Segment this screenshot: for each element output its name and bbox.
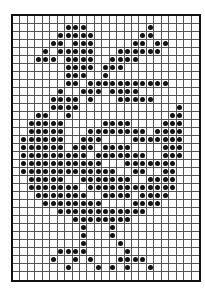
empty-stitch-cell xyxy=(147,128,154,136)
filled-stitch-cell xyxy=(80,32,87,40)
empty-stitch-cell xyxy=(154,96,161,104)
empty-stitch-cell xyxy=(20,240,27,248)
empty-stitch-cell xyxy=(132,104,139,112)
empty-stitch-cell xyxy=(139,216,146,224)
empty-stitch-cell xyxy=(177,80,184,88)
filled-stitch-cell xyxy=(87,32,94,40)
empty-stitch-cell xyxy=(192,192,199,200)
filled-stitch-cell xyxy=(95,128,102,136)
empty-stitch-cell xyxy=(169,16,176,24)
filled-stitch-cell xyxy=(65,96,72,104)
filled-stitch-cell xyxy=(95,208,102,216)
empty-stitch-cell xyxy=(147,224,154,232)
empty-stitch-cell xyxy=(95,112,102,120)
filled-stitch-cell xyxy=(87,200,94,208)
empty-stitch-cell xyxy=(13,248,20,256)
filled-stitch-cell xyxy=(80,192,87,200)
empty-stitch-cell xyxy=(43,64,50,72)
empty-stitch-cell xyxy=(35,40,42,48)
filled-stitch-cell xyxy=(43,128,50,136)
filled-stitch-cell xyxy=(132,160,139,168)
filled-stitch-cell xyxy=(65,80,72,88)
filled-stitch-cell xyxy=(110,128,117,136)
empty-stitch-cell xyxy=(20,208,27,216)
empty-stitch-cell xyxy=(102,112,109,120)
empty-stitch-cell xyxy=(35,64,42,72)
filled-stitch-cell xyxy=(139,184,146,192)
empty-stitch-cell xyxy=(139,176,146,184)
empty-stitch-cell xyxy=(162,64,169,72)
filled-stitch-cell xyxy=(147,48,154,56)
empty-stitch-cell xyxy=(73,112,80,120)
filled-stitch-cell xyxy=(28,176,35,184)
empty-stitch-cell xyxy=(139,72,146,80)
empty-stitch-cell xyxy=(80,16,87,24)
empty-stitch-cell xyxy=(20,128,27,136)
empty-stitch-cell xyxy=(147,72,154,80)
filled-stitch-cell xyxy=(73,256,80,264)
filled-stitch-cell xyxy=(102,216,109,224)
filled-stitch-cell xyxy=(154,184,161,192)
filled-stitch-cell xyxy=(139,40,146,48)
empty-stitch-cell xyxy=(20,120,27,128)
filled-stitch-cell xyxy=(132,40,139,48)
empty-stitch-cell xyxy=(28,240,35,248)
empty-stitch-cell xyxy=(169,192,176,200)
empty-stitch-cell xyxy=(20,64,27,72)
empty-stitch-cell xyxy=(95,256,102,264)
filled-stitch-cell xyxy=(154,192,161,200)
empty-stitch-cell xyxy=(162,256,169,264)
filled-stitch-cell xyxy=(117,176,124,184)
empty-stitch-cell xyxy=(20,56,27,64)
empty-stitch-cell xyxy=(20,176,27,184)
filled-stitch-cell xyxy=(50,176,57,184)
filled-stitch-cell xyxy=(110,56,117,64)
filled-stitch-cell xyxy=(177,128,184,136)
empty-stitch-cell xyxy=(102,136,109,144)
empty-stitch-cell xyxy=(169,40,176,48)
filled-stitch-cell xyxy=(87,56,94,64)
empty-stitch-cell xyxy=(139,24,146,32)
filled-stitch-cell xyxy=(65,248,72,256)
filled-stitch-cell xyxy=(102,208,109,216)
empty-stitch-cell xyxy=(58,240,65,248)
empty-stitch-cell xyxy=(20,16,27,24)
filled-stitch-cell xyxy=(43,112,50,120)
empty-stitch-cell xyxy=(102,24,109,32)
filled-stitch-cell xyxy=(50,152,57,160)
empty-stitch-cell xyxy=(184,168,191,176)
empty-stitch-cell xyxy=(50,48,57,56)
empty-stitch-cell xyxy=(192,112,199,120)
empty-stitch-cell xyxy=(95,56,102,64)
empty-stitch-cell xyxy=(73,232,80,240)
empty-stitch-cell xyxy=(102,48,109,56)
empty-stitch-cell xyxy=(13,120,20,128)
filled-stitch-cell xyxy=(95,184,102,192)
empty-stitch-cell xyxy=(28,208,35,216)
filled-stitch-cell xyxy=(117,56,124,64)
filled-stitch-cell xyxy=(147,32,154,40)
empty-stitch-cell xyxy=(20,224,27,232)
filled-stitch-cell xyxy=(80,168,87,176)
empty-stitch-cell xyxy=(169,208,176,216)
empty-stitch-cell xyxy=(169,64,176,72)
filled-stitch-cell xyxy=(73,72,80,80)
empty-stitch-cell xyxy=(125,112,132,120)
empty-stitch-cell xyxy=(162,248,169,256)
filled-stitch-cell xyxy=(28,184,35,192)
empty-stitch-cell xyxy=(117,112,124,120)
empty-stitch-cell xyxy=(192,48,199,56)
empty-stitch-cell xyxy=(20,24,27,32)
filled-stitch-cell xyxy=(65,168,72,176)
empty-stitch-cell xyxy=(132,16,139,24)
empty-stitch-cell xyxy=(20,104,27,112)
empty-stitch-cell xyxy=(13,272,20,280)
filled-stitch-cell xyxy=(132,56,139,64)
empty-stitch-cell xyxy=(184,32,191,40)
empty-stitch-cell xyxy=(132,216,139,224)
filled-stitch-cell xyxy=(162,184,169,192)
empty-stitch-cell xyxy=(192,184,199,192)
empty-stitch-cell xyxy=(65,144,72,152)
filled-stitch-cell xyxy=(125,48,132,56)
empty-stitch-cell xyxy=(95,224,102,232)
